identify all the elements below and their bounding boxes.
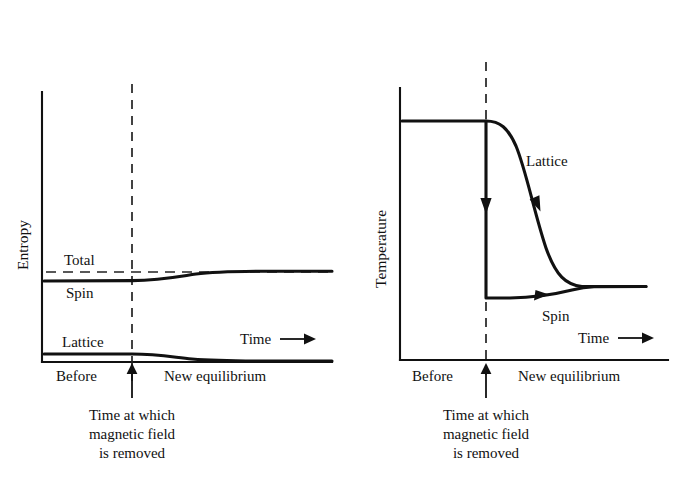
entropy-label-spin: Spin [66,285,94,301]
temperature-chart: Temperature Lattice Spin Time Before New… [350,0,691,485]
entropy-caption-line-2: magnetic field [89,426,176,442]
temperature-label-spin: Spin [542,308,570,324]
temperature-region-after: New equilibrium [518,368,620,384]
temperature-y-axis-label: Temperature [372,210,389,288]
entropy-label-total: Total [64,252,95,268]
temperature-spin-flow-arrow-icon [534,290,549,301]
temperature-x-axis-label: Time [578,330,609,346]
temperature-label-lattice: Lattice [526,153,568,169]
figure-root: Entropy Total Spin Lattice Time Before N… [0,0,691,485]
entropy-x-axis-label: Time [240,331,271,347]
entropy-panel: Entropy Total Spin Lattice Time Before N… [0,0,350,485]
temperature-caption-line-3: is removed [453,445,520,461]
entropy-caption-line-3: is removed [99,445,166,461]
entropy-label-lattice: Lattice [62,334,104,350]
temperature-curve-lattice [402,121,646,287]
entropy-chart: Entropy Total Spin Lattice Time Before N… [0,0,350,485]
temperature-curve-spin [486,121,646,298]
entropy-curve-lattice [44,354,332,361]
entropy-event-pointer-arrow-icon [127,363,138,398]
temperature-event-pointer-arrow-icon [481,363,492,398]
entropy-region-after: New equilibrium [164,368,266,384]
temperature-caption-line-2: magnetic field [443,426,530,442]
entropy-y-axis-label: Entropy [14,220,31,270]
entropy-region-before: Before [56,368,97,384]
temperature-time-arrow-icon [618,333,654,344]
temperature-region-before: Before [412,368,453,384]
temperature-spin-drop-arrow-icon [480,198,491,214]
entropy-time-arrow-icon [280,334,316,345]
entropy-caption-line-1: Time at which [89,407,176,423]
temperature-caption-line-1: Time at which [443,407,530,423]
temperature-panel: Temperature Lattice Spin Time Before New… [350,0,691,485]
